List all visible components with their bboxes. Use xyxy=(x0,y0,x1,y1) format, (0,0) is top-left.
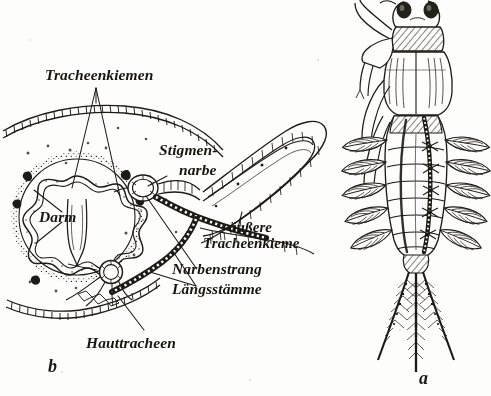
label-stigmennarbe-line2: narbe xyxy=(179,161,217,178)
label-stigmennarbe-line1: Stigmen- xyxy=(159,141,218,158)
label-hauttracheen: Hauttracheen xyxy=(85,334,176,351)
panel-letter-b: b xyxy=(48,356,57,376)
figure-svg: Tracheenkiemen Stigmen- narbe Darm äußer… xyxy=(0,0,491,396)
larva-thorax xyxy=(384,52,452,115)
label-narbenstrang: Narbenstrang xyxy=(171,260,262,277)
label-darm: Darm xyxy=(38,208,76,225)
larva-pronotum xyxy=(392,27,443,51)
figure-root: Tracheenkiemen Stigmen- narbe Darm äußer… xyxy=(0,0,491,396)
label-aussere-tracheenkieme-line2: Tracheenkieme xyxy=(203,235,300,251)
label-laengsstaemme: Längsstämme xyxy=(171,280,262,297)
label-aussere-tracheenkieme-line1: äußere xyxy=(229,219,272,235)
panel-letter-a: a xyxy=(419,368,428,388)
label-tracheenkiemen: Tracheenkiemen xyxy=(45,66,153,83)
